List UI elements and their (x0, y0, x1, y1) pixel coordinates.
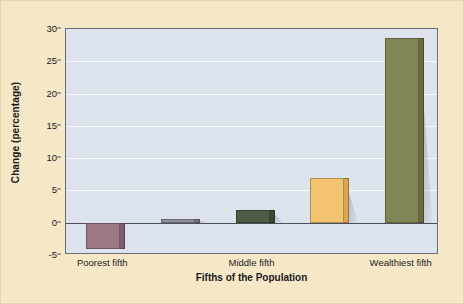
bar-face (236, 210, 270, 223)
x-tick-label: Poorest fifth (77, 257, 128, 268)
chart-figure: Change (percentage) -5051015202530 Poore… (0, 0, 464, 304)
bar-face (161, 219, 195, 222)
plot-area (65, 28, 438, 254)
bar-face (385, 38, 419, 223)
gridline (66, 126, 437, 127)
bar[interactable] (86, 223, 120, 249)
bar-side (120, 223, 125, 249)
x-axis-tick-labels: Poorest fifthMiddle fifthWealthiest fift… (65, 257, 438, 273)
bar-side (344, 178, 349, 223)
bar-face (86, 223, 120, 249)
gridline (66, 61, 437, 62)
y-tick-label: 20 (46, 87, 57, 98)
y-axis-tick-labels: -5051015202530 (29, 28, 61, 254)
x-tick-label: Middle fifth (229, 257, 275, 268)
y-tick-mark (57, 221, 61, 222)
bar-side (195, 219, 200, 222)
bar-side (419, 38, 424, 223)
y-tick-mark (57, 124, 61, 125)
bar[interactable] (236, 210, 270, 223)
gridline (66, 190, 437, 191)
plot-inner (66, 29, 437, 253)
bar[interactable] (385, 38, 419, 223)
gridline (66, 158, 437, 159)
y-tick-label: 25 (46, 55, 57, 66)
y-tick-mark (57, 254, 61, 255)
y-tick-label: 30 (46, 23, 57, 34)
bar-side (270, 210, 275, 223)
gridline (66, 94, 437, 95)
y-tick-label: 10 (46, 152, 57, 163)
y-tick-mark (57, 28, 61, 29)
y-axis-title: Change (percentage) (5, 1, 27, 263)
bar-face (310, 178, 344, 223)
y-tick-mark (57, 92, 61, 93)
bar[interactable] (310, 178, 344, 223)
x-axis-title: Fifths of the Population (65, 272, 438, 283)
bar[interactable] (161, 219, 195, 222)
y-tick-label: -5 (49, 249, 57, 260)
y-tick-mark (57, 60, 61, 61)
x-tick-label: Wealthiest fifth (370, 257, 432, 268)
y-tick-mark (57, 157, 61, 158)
y-tick-label: 15 (46, 119, 57, 130)
y-tick-mark (57, 189, 61, 190)
y-axis-title-text: Change (percentage) (11, 81, 22, 182)
